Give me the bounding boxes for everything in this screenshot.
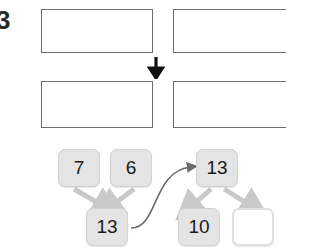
arrow-13-to-blank — [224, 189, 248, 204]
arrow-7-to-13 — [74, 189, 100, 204]
number-box-total[interactable]: 13 — [196, 149, 238, 187]
number-box-addend-1[interactable]: 7 — [58, 149, 100, 187]
arrow-6-to-13 — [114, 189, 134, 204]
number-box-part-1[interactable]: 10 — [178, 208, 220, 246]
arrow-13-to-10 — [194, 189, 211, 204]
number-box-sum[interactable]: 13 — [86, 208, 128, 246]
number-box-part-2-blank[interactable] — [232, 208, 274, 246]
number-box-addend-2[interactable]: 6 — [110, 149, 152, 187]
